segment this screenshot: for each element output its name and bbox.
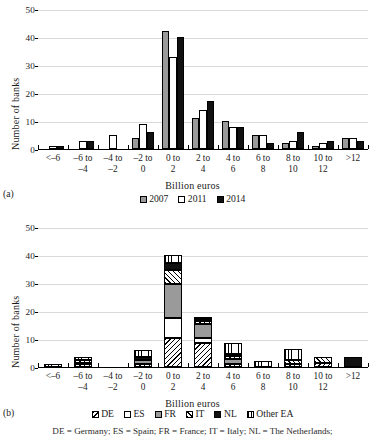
y-tick-label: 20	[26, 307, 38, 317]
x-tick-mark	[98, 145, 99, 149]
x-tick-mark	[188, 145, 189, 149]
bar	[297, 132, 304, 149]
bar	[57, 146, 64, 149]
x-tick-mark	[158, 145, 159, 149]
stacked-bar	[344, 357, 363, 367]
legend-swatch-icon	[178, 196, 185, 203]
x-tick-mark	[338, 145, 339, 149]
stack-segment	[74, 360, 93, 363]
legend-swatch-icon	[247, 411, 254, 418]
gridline	[38, 312, 368, 313]
gridline	[38, 38, 368, 39]
legend-panel-a: 200720112014	[0, 193, 385, 204]
stack-segment	[194, 324, 213, 338]
figure-footnote: DE = Germany; ES = Spain; FR = France; I…	[0, 426, 385, 436]
stack-segment	[284, 360, 303, 364]
x-tick-mark	[218, 145, 219, 149]
x-tick-mark	[368, 363, 369, 367]
stack-segment	[254, 361, 273, 367]
x-tick-mark	[68, 363, 69, 367]
x-tick-mark	[128, 363, 129, 367]
stack-segment	[164, 255, 183, 263]
bar	[289, 141, 296, 149]
stacked-bar	[314, 357, 333, 367]
legend-label: 2007	[149, 193, 168, 204]
legend-swatch-icon	[140, 196, 147, 203]
stack-segment	[314, 357, 333, 363]
plot-frame-b: 01020304050<–6–6 to –4–4 to –2–2 to 00 t…	[38, 228, 368, 368]
y-tick-label: 40	[26, 251, 38, 261]
x-tick-mark	[158, 363, 159, 367]
legend-label: DE	[101, 408, 114, 419]
stacked-bar	[254, 361, 273, 367]
stacked-bar	[194, 318, 213, 367]
legend-item-other-ea: Other EA	[247, 408, 294, 419]
stacked-bar	[44, 364, 63, 367]
stack-segment	[74, 357, 93, 360]
legend-item-2011: 2011	[178, 193, 206, 204]
stack-segment	[164, 318, 183, 338]
x-tick-mark	[38, 363, 39, 367]
legend-item-fr: FR	[155, 408, 176, 419]
stack-segment	[284, 364, 303, 367]
bar	[229, 127, 236, 149]
x-tick-mark	[38, 145, 39, 149]
x-tick-mark	[308, 363, 309, 367]
stack-segment	[164, 284, 183, 318]
legend-item-it: IT	[186, 408, 205, 419]
stack-segment	[224, 359, 243, 365]
x-tick-mark	[248, 145, 249, 149]
y-tick-label: 30	[26, 61, 38, 71]
bar	[192, 118, 199, 149]
bar	[342, 138, 349, 149]
bar	[177, 37, 184, 149]
legend-item-nl: NL	[214, 408, 236, 419]
legend-label: FR	[164, 408, 176, 419]
x-tick-label: >12	[331, 153, 374, 164]
stacked-bar	[74, 357, 93, 367]
bar	[267, 143, 274, 149]
stack-segment	[314, 363, 333, 367]
stack-segment	[224, 356, 243, 359]
gridline	[38, 66, 368, 67]
y-tick-label: 20	[26, 89, 38, 99]
bar	[199, 110, 206, 149]
gridline	[38, 256, 368, 257]
legend-label: ES	[133, 408, 144, 419]
legend-item-2014: 2014	[217, 193, 246, 204]
stacked-bar	[284, 349, 303, 367]
bar	[357, 141, 364, 149]
stack-segment	[194, 338, 213, 344]
x-tick-mark	[68, 145, 69, 149]
legend-item-es: ES	[124, 408, 145, 419]
bar	[87, 141, 94, 149]
bar	[252, 135, 259, 149]
stacked-bar	[224, 343, 243, 367]
x-tick-mark	[278, 145, 279, 149]
y-axis-title-b: Number of banks	[10, 296, 21, 368]
legend-label: NL	[224, 408, 237, 419]
x-tick-label: >12	[331, 371, 374, 382]
x-tick-mark	[188, 363, 189, 367]
stacked-bar	[134, 350, 153, 367]
stack-segment	[224, 364, 243, 367]
stack-segment	[134, 360, 153, 364]
x-tick-mark	[218, 363, 219, 367]
bar	[132, 138, 139, 149]
bar	[109, 135, 116, 149]
x-tick-mark	[128, 145, 129, 149]
legend-label: 2014	[226, 193, 245, 204]
stack-segment	[344, 357, 363, 367]
gridline	[38, 228, 368, 229]
gridline	[38, 10, 368, 11]
stack-segment	[164, 263, 183, 270]
y-tick-label: 10	[26, 117, 38, 127]
legend-swatch-icon	[217, 196, 224, 203]
x-tick-mark	[308, 145, 309, 149]
bar	[162, 31, 169, 149]
plot-frame-a: 01020304050<–6–6 to –4–4 to –2–2 to 00 t…	[38, 10, 368, 150]
bar	[147, 132, 154, 149]
bar	[237, 127, 244, 149]
legend-swatch-icon	[214, 411, 221, 418]
bar	[349, 138, 356, 149]
